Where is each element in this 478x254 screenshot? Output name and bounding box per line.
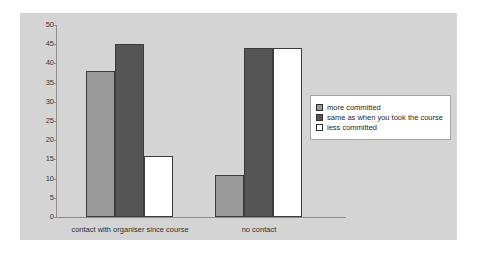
bar[interactable] xyxy=(215,175,244,217)
bar-group xyxy=(86,25,173,217)
bar[interactable] xyxy=(273,48,302,217)
y-axis-tick-label: 40 xyxy=(24,60,54,68)
bar-chart-figure: 05101520253035404550 contact with organi… xyxy=(20,13,457,240)
bar[interactable] xyxy=(144,156,173,217)
bar[interactable] xyxy=(244,48,273,217)
legend-swatch-icon xyxy=(316,114,323,121)
chart-legend: more committedsame as when you took the … xyxy=(310,95,451,140)
x-axis-category-label: no contact xyxy=(242,225,277,234)
bar[interactable] xyxy=(86,71,115,217)
bar-group xyxy=(215,25,302,217)
legend-swatch-icon xyxy=(316,124,323,131)
y-axis-tick-mark xyxy=(53,25,56,26)
plot-area: 05101520253035404550 contact with organi… xyxy=(56,25,346,218)
bar[interactable] xyxy=(115,44,144,217)
legend-item[interactable]: less committed xyxy=(316,124,443,132)
y-axis-tick-label: 25 xyxy=(24,117,54,125)
y-axis-tick-mark xyxy=(53,179,56,180)
y-axis-tick-label: 45 xyxy=(24,40,54,48)
y-axis-tick-label: 10 xyxy=(24,175,54,183)
y-axis-tick-mark xyxy=(53,140,56,141)
y-axis-line xyxy=(56,25,57,218)
y-axis-tick-label: 5 xyxy=(24,194,54,202)
y-axis-tick-label: 20 xyxy=(24,136,54,144)
x-axis-category-label: contact with organiser since course xyxy=(71,225,188,234)
legend-item[interactable]: same as when you took the course xyxy=(316,114,443,122)
legend-swatch-icon xyxy=(316,104,323,111)
y-axis-tick-mark xyxy=(53,198,56,199)
legend-item-label: more committed xyxy=(327,104,381,112)
y-axis-tick-label: 35 xyxy=(24,79,54,87)
y-axis-tick-label: 50 xyxy=(24,21,54,29)
y-axis-tick-label: 15 xyxy=(24,156,54,164)
x-axis-line xyxy=(56,217,346,218)
y-axis-tick-mark xyxy=(53,63,56,64)
y-axis-tick-mark xyxy=(53,83,56,84)
y-axis-tick-mark xyxy=(53,102,56,103)
y-axis-tick-mark xyxy=(53,217,56,218)
legend-item-label: same as when you took the course xyxy=(327,114,443,122)
legend-item[interactable]: more committed xyxy=(316,104,443,112)
legend-item-label: less committed xyxy=(327,124,377,132)
y-axis-tick-mark xyxy=(53,44,56,45)
y-axis-tick-label: 0 xyxy=(24,213,54,221)
y-axis-tick-label: 30 xyxy=(24,98,54,106)
y-axis-tick-mark xyxy=(53,121,56,122)
y-axis-tick-mark xyxy=(53,159,56,160)
